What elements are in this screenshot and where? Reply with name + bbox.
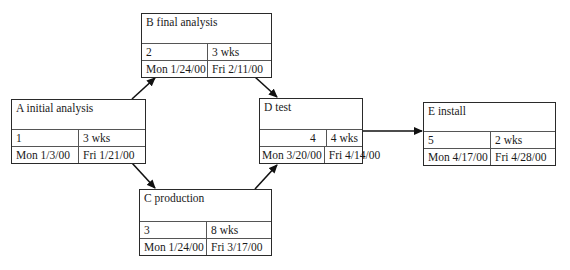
task-dates-row: Mon 1/24/00 Fri 2/11/00 bbox=[142, 61, 271, 77]
task-id-duration-row: 3 8 wks bbox=[140, 222, 271, 239]
task-start-date: Mon 1/24/00 bbox=[140, 239, 207, 255]
task-start-date: Mon 3/20/00 bbox=[260, 147, 325, 163]
task-duration: 2 wks bbox=[491, 132, 526, 148]
task-title: D test bbox=[260, 99, 362, 130]
task-title: B final analysis bbox=[142, 14, 271, 44]
task-start-date: Mon 4/17/00 bbox=[424, 149, 491, 165]
arrow-a-to-c bbox=[132, 163, 155, 188]
task-dates-row: Mon 1/3/00 Fri 1/21/00 bbox=[12, 147, 145, 163]
task-title: A initial analysis bbox=[12, 100, 145, 130]
task-finish-date: Fri 4/14/00 bbox=[325, 147, 384, 163]
task-start-date: Mon 1/3/00 bbox=[12, 147, 79, 163]
task-finish-date: Fri 3/17/00 bbox=[207, 239, 266, 255]
task-number: 5 bbox=[424, 132, 491, 148]
task-number: 1 bbox=[12, 130, 79, 146]
task-duration: 4 wks bbox=[327, 130, 362, 146]
task-dates-row: Mon 4/17/00 Fri 4/28/00 bbox=[424, 149, 555, 165]
task-duration: 3 wks bbox=[208, 44, 243, 60]
task-id-duration-row: 2 3 wks bbox=[142, 44, 271, 61]
task-finish-date: Fri 2/11/00 bbox=[208, 61, 267, 77]
task-id-duration-row: 5 2 wks bbox=[424, 132, 555, 149]
task-duration: 8 wks bbox=[207, 222, 242, 238]
task-node-c[interactable]: C production 3 8 wks Mon 1/24/00 Fri 3/1… bbox=[139, 189, 272, 256]
task-node-d[interactable]: D test 4 4 wks Mon 3/20/00 Fri 4/14/00 bbox=[259, 98, 363, 164]
task-node-b[interactable]: B final analysis 2 3 wks Mon 1/24/00 Fri… bbox=[141, 13, 272, 78]
task-node-a[interactable]: A initial analysis 1 3 wks Mon 1/3/00 Fr… bbox=[11, 99, 146, 164]
task-duration: 3 wks bbox=[79, 130, 114, 146]
task-number: 2 bbox=[142, 44, 208, 60]
task-start-date: Mon 1/24/00 bbox=[142, 61, 208, 77]
task-dates-row: Mon 3/20/00 Fri 4/14/00 bbox=[260, 147, 362, 163]
task-dates-row: Mon 1/24/00 Fri 3/17/00 bbox=[140, 239, 271, 255]
task-number: 4 bbox=[260, 130, 327, 146]
task-node-e[interactable]: E install 5 2 wks Mon 4/17/00 Fri 4/28/0… bbox=[423, 102, 556, 166]
task-number: 3 bbox=[140, 222, 207, 238]
arrow-c-to-d bbox=[255, 165, 277, 189]
task-id-duration-row: 4 4 wks bbox=[260, 130, 362, 147]
task-title: C production bbox=[140, 190, 271, 222]
task-finish-date: Fri 1/21/00 bbox=[79, 147, 138, 163]
arrow-b-to-d bbox=[255, 77, 277, 97]
task-id-duration-row: 1 3 wks bbox=[12, 130, 145, 147]
task-finish-date: Fri 4/28/00 bbox=[491, 149, 550, 165]
task-title: E install bbox=[424, 103, 555, 132]
arrow-a-to-b bbox=[132, 78, 155, 99]
